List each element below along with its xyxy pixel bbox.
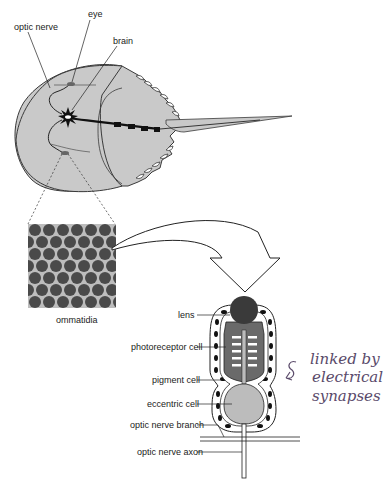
handwritten-annotation: linked by electrical synapses: [286, 350, 383, 405]
label-optic-nerve-branch: optic nerve branch: [130, 420, 204, 430]
label-optic-nerve: optic nerve: [14, 22, 58, 32]
ommatidia-inset: ommatidia: [28, 224, 116, 325]
annotation-line-3: synapses: [312, 387, 381, 405]
annotation-line-2: electrical: [312, 368, 383, 386]
label-eccentric-cell: eccentric cell: [147, 399, 199, 409]
curved-arrow-icon: [112, 221, 280, 292]
label-eye: eye: [88, 9, 103, 19]
label-optic-nerve-axon: optic nerve axon: [137, 447, 203, 457]
label-pigment-cell: pigment cell: [152, 375, 200, 385]
annotation-line-1: linked by: [310, 350, 380, 368]
horseshoe-crab-eye-diagram: optic nerve eye brain ommatidia: [0, 0, 387, 482]
lens: [230, 296, 258, 324]
label-ommatidia: ommatidia: [56, 315, 98, 325]
horseshoe-crab: optic nerve eye brain: [14, 9, 292, 192]
ommatidium-detail: [200, 296, 300, 478]
label-brain: brain: [113, 36, 133, 46]
label-photoreceptor-cell: photoreceptor cell: [131, 342, 203, 352]
label-lens: lens: [178, 310, 195, 320]
crab-telson: [166, 116, 292, 132]
curly-bracket-arrow-icon: [286, 362, 296, 380]
